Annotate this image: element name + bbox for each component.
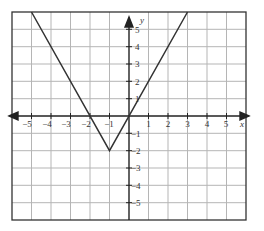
x-axis-left-arrow-icon — [9, 112, 18, 120]
y-tick-labels: 5 4 3 2 1 −1 −2 −3 −4 −5 y — [131, 15, 144, 208]
x-tick-label: 3 — [185, 119, 190, 129]
y-tick-label: 2 — [135, 77, 140, 87]
x-tick-label: −1 — [104, 119, 114, 129]
x-tick-label: −5 — [22, 119, 32, 129]
x-tick-labels: −5 −4 −3 −2 −1 1 2 3 4 5 x — [22, 119, 244, 129]
x-tick-label: −2 — [81, 119, 91, 129]
x-axis-label: x — [239, 119, 244, 129]
y-tick-label: −3 — [131, 163, 141, 173]
y-tick-label: 4 — [135, 42, 140, 52]
x-tick-label: 4 — [205, 119, 210, 129]
y-tick-label: −4 — [131, 181, 141, 191]
y-tick-label: 1 — [135, 94, 140, 104]
y-tick-label: 3 — [135, 59, 140, 69]
x-tick-label: 1 — [146, 119, 151, 129]
y-axis-up-arrow-icon — [125, 17, 133, 27]
coordinate-plane: −5 −4 −3 −2 −1 1 2 3 4 5 x 5 4 3 2 1 −1 … — [0, 0, 264, 231]
y-axis-label: y — [139, 15, 144, 25]
y-tick-label: −2 — [131, 146, 141, 156]
x-tick-label: −3 — [61, 119, 71, 129]
y-tick-label: −5 — [131, 198, 141, 208]
x-tick-label: 2 — [166, 119, 171, 129]
y-tick-label: −1 — [131, 129, 141, 139]
x-tick-label: 5 — [224, 119, 229, 129]
y-tick-label: 5 — [135, 25, 140, 35]
x-tick-label: −4 — [42, 119, 52, 129]
